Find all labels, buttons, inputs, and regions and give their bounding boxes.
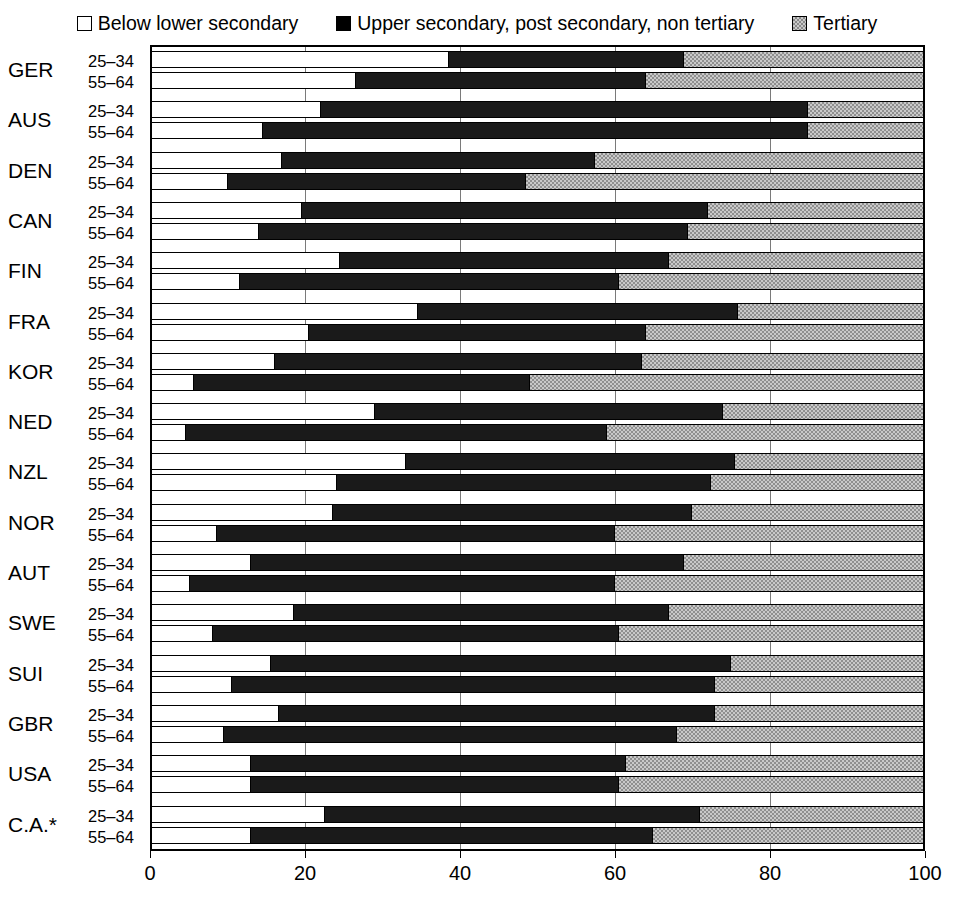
bar-row: [150, 273, 925, 290]
segment-tertiary: [715, 706, 924, 721]
open-square-swatch: [77, 16, 92, 31]
segment-below-lower-secondary: [151, 677, 232, 692]
age-label-fin-1: 25–34: [88, 253, 146, 272]
segment-below-lower-secondary: [151, 153, 282, 168]
bar-row: [150, 726, 925, 743]
age-label-gbr-1: 25–34: [88, 706, 146, 725]
segment-upper-secondary: [251, 777, 618, 792]
segment-tertiary: [688, 224, 924, 239]
x-tick-label-20: 20: [294, 862, 316, 885]
segment-below-lower-secondary: [151, 203, 302, 218]
segment-tertiary: [607, 425, 924, 440]
legend-item-3: Tertiary: [792, 12, 877, 35]
segment-tertiary: [738, 304, 924, 319]
country-label-den: DEN: [8, 159, 84, 183]
segment-below-lower-secondary: [151, 325, 309, 340]
age-label-fin-2: 55–64: [88, 274, 146, 293]
x-tick-40: [460, 851, 461, 858]
segment-below-lower-secondary: [151, 656, 271, 671]
age-label-ca-1: 25–34: [88, 807, 146, 826]
legend-item-1: Below lower secondary: [77, 12, 299, 35]
segment-upper-secondary: [309, 325, 645, 340]
x-tick-60: [615, 851, 616, 858]
segment-upper-secondary: [224, 727, 676, 742]
age-label-gbr-2: 55–64: [88, 727, 146, 746]
country-label-sui: SUI: [8, 662, 84, 686]
segment-tertiary: [808, 123, 924, 138]
segment-tertiary: [530, 375, 924, 390]
x-axis-ticks: [150, 851, 925, 859]
segment-upper-secondary: [217, 526, 615, 541]
bar-row: [150, 625, 925, 642]
bar-row: [150, 504, 925, 521]
segment-upper-secondary: [228, 174, 526, 189]
bar-row: [150, 655, 925, 672]
segment-tertiary: [615, 576, 924, 591]
bar-row: [150, 202, 925, 219]
x-tick-label-40: 40: [449, 862, 471, 885]
segment-upper-secondary: [282, 153, 595, 168]
segment-tertiary: [677, 727, 924, 742]
bar-row: [150, 374, 925, 391]
segment-upper-secondary: [240, 274, 619, 289]
segment-below-lower-secondary: [151, 727, 224, 742]
x-tick-label-60: 60: [604, 862, 626, 885]
segment-upper-secondary: [263, 123, 808, 138]
age-label-swe-1: 25–34: [88, 605, 146, 624]
segment-below-lower-secondary: [151, 706, 279, 721]
age-label-ned-2: 55–64: [88, 425, 146, 444]
bar-row: [150, 152, 925, 169]
age-label-can-2: 55–64: [88, 224, 146, 243]
age-label-ger-1: 25–34: [88, 52, 146, 71]
segment-below-lower-secondary: [151, 454, 406, 469]
segment-upper-secondary: [356, 73, 646, 88]
segment-tertiary: [626, 756, 924, 771]
age-label-fra-2: 55–64: [88, 325, 146, 344]
segment-below-lower-secondary: [151, 505, 333, 520]
bar-row: [150, 604, 925, 621]
segment-below-lower-secondary: [151, 274, 240, 289]
bar-row: [150, 453, 925, 470]
hatched-square-swatch: [792, 16, 807, 31]
bar-row: [150, 424, 925, 441]
bar-row: [150, 827, 925, 844]
bar-row: [150, 705, 925, 722]
segment-tertiary: [708, 203, 924, 218]
country-label-aut: AUT: [8, 561, 84, 585]
segment-below-lower-secondary: [151, 354, 275, 369]
bar-row: [150, 101, 925, 118]
bar-row: [150, 223, 925, 240]
plot-area: [150, 45, 925, 851]
segment-upper-secondary: [251, 828, 653, 843]
bar-row: [150, 324, 925, 341]
segment-tertiary: [619, 777, 924, 792]
age-label-aut-1: 25–34: [88, 555, 146, 574]
segment-tertiary: [615, 526, 924, 541]
bar-row: [150, 51, 925, 68]
segment-upper-secondary: [325, 807, 700, 822]
segment-upper-secondary: [333, 505, 692, 520]
segment-upper-secondary: [275, 354, 642, 369]
segment-upper-secondary: [271, 656, 731, 671]
age-label-swe-2: 55–64: [88, 626, 146, 645]
segment-upper-secondary: [449, 52, 685, 67]
segment-below-lower-secondary: [151, 555, 251, 570]
segment-upper-secondary: [232, 677, 715, 692]
age-label-aus-1: 25–34: [88, 102, 146, 121]
age-label-usa-2: 55–64: [88, 777, 146, 796]
segment-below-lower-secondary: [151, 576, 190, 591]
legend-item-label: Upper secondary, post secondary, non ter…: [357, 12, 754, 35]
x-axis-labels: 020406080100: [0, 862, 954, 888]
segment-tertiary: [642, 354, 924, 369]
segment-upper-secondary: [302, 203, 708, 218]
age-label-nzl-1: 25–34: [88, 454, 146, 473]
country-label-nzl: NZL: [8, 460, 84, 484]
segment-below-lower-secondary: [151, 828, 251, 843]
age-label-nor-1: 25–34: [88, 505, 146, 524]
x-tick-label-80: 80: [759, 862, 781, 885]
bar-row: [150, 474, 925, 491]
segment-tertiary: [669, 605, 924, 620]
legend-item-label: Tertiary: [813, 12, 877, 35]
segment-upper-secondary: [186, 425, 607, 440]
age-label-ca-2: 55–64: [88, 828, 146, 847]
